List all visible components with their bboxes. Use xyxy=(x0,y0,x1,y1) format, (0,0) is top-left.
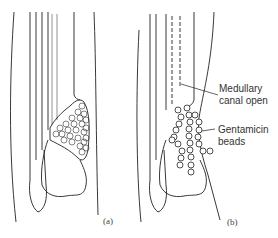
bone-diagram xyxy=(0,0,278,238)
medullary-label-1: Medullary xyxy=(219,83,262,94)
caption-b: (b) xyxy=(227,217,238,227)
gentamicin-beads xyxy=(169,105,213,175)
caption-a: (a) xyxy=(103,216,113,226)
gentamicin-label-2: beads xyxy=(218,136,245,147)
medullary-label-2: canal open xyxy=(219,95,268,106)
gentamicin-label-1: Gentamicin xyxy=(218,124,269,135)
bead-cluster-a xyxy=(53,103,89,155)
